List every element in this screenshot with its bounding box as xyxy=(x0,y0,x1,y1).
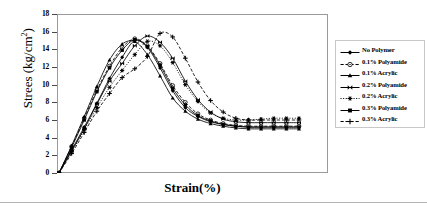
y-axis: 024681012141618 xyxy=(0,0,57,185)
data-point-marker xyxy=(297,125,300,128)
y-axis-tick-label: 0 xyxy=(45,169,49,177)
y-axis-tick-label: 12 xyxy=(42,63,49,71)
data-point-marker xyxy=(183,79,187,83)
y-axis-tick-mark xyxy=(52,173,57,174)
y-axis-tick-label: 6 xyxy=(45,116,49,124)
data-point-marker xyxy=(145,40,149,44)
data-point-marker xyxy=(133,38,136,41)
data-point-marker xyxy=(272,125,275,128)
legend-item-label: No Polymer xyxy=(362,46,395,53)
data-point-marker xyxy=(348,97,353,101)
data-point-marker xyxy=(158,74,162,78)
series-3 xyxy=(57,39,301,173)
legend-item-4[interactable]: 0.2% Polyamide xyxy=(339,79,422,91)
y-axis-tick-label: 10 xyxy=(42,81,49,89)
legend-marker-open-circle-icon xyxy=(339,56,361,67)
data-point-marker xyxy=(196,80,201,85)
data-point-marker xyxy=(171,87,174,90)
data-point-marker xyxy=(183,56,188,61)
legend-item-label: 0.2% Polyamide xyxy=(362,81,407,88)
data-point-marker xyxy=(171,56,175,60)
data-point-marker xyxy=(209,119,212,122)
chart-canvas: Strees (kg/cm2) 024681012141618 Strain(%… xyxy=(0,0,333,185)
legend: No Polymer0.1% Polyamide0.1% Acrylic0.2%… xyxy=(335,40,425,128)
series-line xyxy=(59,40,299,173)
data-point-marker xyxy=(348,50,353,55)
data-point-marker xyxy=(120,49,123,52)
data-point-marker xyxy=(108,66,111,69)
data-point-marker xyxy=(184,103,187,106)
legend-item-7[interactable]: 0.3% Acrylic xyxy=(339,113,422,125)
y-axis-tick-label: 2 xyxy=(45,152,49,160)
data-point-marker xyxy=(234,124,237,127)
legend-marker-filled-triangle-icon xyxy=(339,67,361,78)
data-point-marker xyxy=(196,114,199,117)
data-point-marker xyxy=(107,85,111,89)
data-point-marker xyxy=(247,125,250,128)
data-point-marker xyxy=(348,62,352,66)
legend-item-2[interactable]: 0.1% Polyamide xyxy=(339,56,422,68)
data-point-marker xyxy=(120,42,124,46)
data-point-marker xyxy=(348,108,352,112)
legend-item-1[interactable]: No Polymer xyxy=(339,44,422,56)
data-point-marker xyxy=(158,64,161,67)
x-axis-title: Strain(%) xyxy=(57,180,328,196)
y-axis-tick-label: 16 xyxy=(42,28,49,36)
data-point-marker xyxy=(108,58,112,62)
series-7 xyxy=(57,31,301,173)
legend-item-label: 0.1% Acrylic xyxy=(362,69,397,76)
legend-item-label: 0.2% Acrylic xyxy=(362,92,397,99)
data-point-marker xyxy=(70,146,73,149)
legend-item-6[interactable]: 0.3% Polyamide xyxy=(339,102,422,114)
legend-item-label: 0.3% Acrylic xyxy=(362,115,397,122)
data-point-marker xyxy=(285,125,288,128)
legend-marker-plus-icon xyxy=(339,113,361,124)
legend-item-5[interactable]: 0.2% Acrylic xyxy=(339,90,422,102)
legend-item-label: 0.3% Polyamide xyxy=(362,104,407,111)
legend-marker-star-asterisk-icon xyxy=(339,90,361,101)
y-axis-tick-label: 18 xyxy=(42,10,49,18)
bottom-divider xyxy=(0,202,427,203)
data-point-marker xyxy=(259,125,262,128)
legend-marker-bowtie-x-icon xyxy=(339,79,361,90)
plot-series-layer xyxy=(57,14,328,173)
legend-marker-filled-square-icon xyxy=(339,102,361,113)
y-axis-tick-label: 4 xyxy=(45,134,49,142)
legend-marker-filled-diamond-icon xyxy=(339,44,361,55)
series-4 xyxy=(57,34,301,173)
y-axis-tick-label: 8 xyxy=(45,99,49,107)
legend-item-label: 0.1% Polyamide xyxy=(362,58,407,65)
series-5 xyxy=(57,40,301,173)
data-point-marker xyxy=(95,90,98,93)
data-point-marker xyxy=(146,45,149,48)
y-axis-tick-label: 14 xyxy=(42,46,49,54)
data-point-marker xyxy=(222,123,225,126)
legend-item-3[interactable]: 0.1% Acrylic xyxy=(339,67,422,79)
chart-screenshot: Strees (kg/cm2) 024681012141618 Strain(%… xyxy=(0,0,427,209)
data-point-marker xyxy=(347,119,352,124)
data-point-marker xyxy=(83,118,86,121)
